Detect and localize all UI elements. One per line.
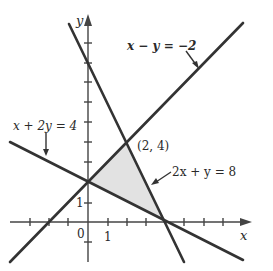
graph-canvas: y x 0 1 1 x − y = −2 x + 2y = 4 2x + y =… (0, 0, 273, 271)
equation-label-line3: 2x + y = 8 (172, 165, 236, 179)
equation-label-line2: x + 2y = 4 (13, 119, 77, 133)
x-tick-label-1: 1 (104, 230, 112, 244)
y-tick-label-1: 1 (76, 196, 84, 210)
intersection-point-label: (2, 4) (137, 139, 169, 153)
x-axis-arrow-icon (240, 218, 252, 226)
label-arrow-line1 (186, 51, 199, 69)
label-arrow-line3 (151, 172, 171, 185)
y-axis-label: y (75, 13, 84, 28)
label-arrow-line2 (43, 133, 49, 156)
x-axis-label: x (240, 228, 248, 243)
y-axis-arrow-icon (84, 14, 92, 26)
origin-label: 0 (77, 227, 85, 241)
equation-label-line1: x − y = −2 (126, 39, 196, 53)
